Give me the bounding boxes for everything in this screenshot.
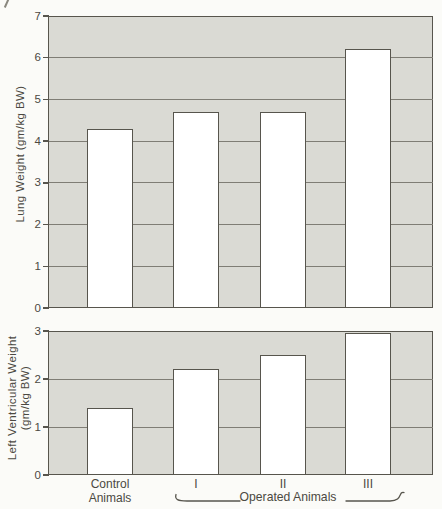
brace-left-segment [176, 495, 240, 502]
y-tick-1-left-ventricular-weight [43, 426, 49, 428]
bar-left-ventricular-weight-iii [345, 333, 391, 475]
y-tick-label-6-lung-weight: 6 [25, 51, 41, 64]
y-axis-title-left-ventricular-weight: Left Ventricular Weight(gm/kg BW) [6, 336, 32, 461]
operated-animals-brace [0, 486, 442, 509]
y-axis-title-lung-weight: Lung Weight (gm/kg BW) [14, 85, 27, 222]
y-tick-1-lung-weight [43, 266, 49, 268]
bar-left-ventricular-weight-control-animals [87, 408, 133, 475]
y-tick-label-3-lung-weight: 3 [25, 176, 41, 189]
y-tick-2-left-ventricular-weight [43, 378, 49, 380]
y-tick-6-lung-weight [43, 57, 49, 59]
y-tick-5-lung-weight [43, 99, 49, 101]
y-axis-title-line: Left Ventricular Weight [6, 336, 19, 461]
y-tick-label-0-left-ventricular-weight: 0 [25, 469, 41, 482]
y-tick-7-lung-weight [43, 15, 49, 17]
bar-left-ventricular-weight-ii [260, 355, 306, 475]
y-tick-4-lung-weight [43, 140, 49, 142]
bar-lung-weight-i [173, 112, 219, 308]
bar-left-ventricular-weight-i [173, 369, 219, 475]
y-axis-title-line: (gm/kg BW) [19, 336, 32, 461]
bar-lung-weight-control-animals [87, 129, 133, 308]
y-tick-3-left-ventricular-weight [43, 330, 49, 332]
y-axis-title-line: Lung Weight (gm/kg BW) [14, 85, 27, 222]
y-tick-label-0-lung-weight: 0 [25, 302, 41, 315]
brace-right-segment [346, 492, 404, 501]
y-tick-3-lung-weight [43, 182, 49, 184]
bar-lung-weight-ii [260, 112, 306, 308]
y-tick-0-left-ventricular-weight [43, 474, 49, 476]
y-tick-label-1-lung-weight: 1 [25, 260, 41, 273]
y-tick-0-lung-weight [43, 307, 49, 309]
scan-corner-mark [4, 0, 10, 8]
y-tick-label-5-lung-weight: 5 [25, 93, 41, 106]
figure-page: 01234567Lung Weight (gm/kg BW)0123Left V… [0, 0, 442, 509]
y-tick-label-2-lung-weight: 2 [25, 218, 41, 231]
y-tick-label-4-lung-weight: 4 [25, 135, 41, 148]
y-tick-2-lung-weight [43, 224, 49, 226]
y-tick-label-7-lung-weight: 7 [25, 10, 41, 23]
bar-lung-weight-iii [345, 49, 391, 308]
operated-animals-label: Operated Animals [240, 490, 337, 504]
